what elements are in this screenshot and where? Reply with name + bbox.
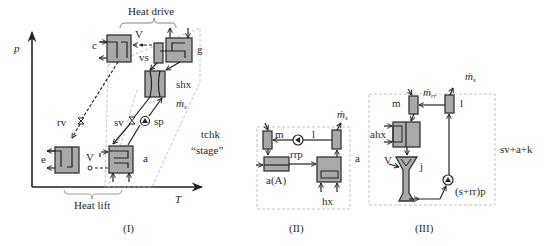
rv-label: rv bbox=[57, 116, 67, 128]
generator-label: g bbox=[197, 43, 203, 55]
vapor-separator-vs bbox=[154, 43, 163, 63]
heat-lift-label: Heat lift bbox=[74, 199, 110, 211]
l-label-3: l bbox=[460, 97, 463, 109]
l-label: l bbox=[312, 128, 315, 140]
caption-II: (II) bbox=[289, 222, 304, 235]
heat-drive-brace bbox=[120, 18, 176, 28]
t-axis-label: T bbox=[175, 193, 182, 205]
rrp-label: rrp bbox=[290, 148, 303, 160]
vapor-label-3: V bbox=[384, 154, 392, 166]
refrigerant-line bbox=[80, 62, 118, 122]
mass-flow-s-label-3: ṁs bbox=[465, 70, 476, 84]
solution-valve-sv bbox=[129, 117, 135, 124]
sv-label: sv bbox=[114, 116, 124, 128]
absorber-a-label-2: a bbox=[355, 152, 360, 164]
vapor-bottom-label: V bbox=[86, 151, 94, 163]
tchk-label: tchk bbox=[201, 128, 220, 140]
refrigerant-valve-rv bbox=[78, 118, 84, 124]
sv-a-k-label: sv+a+k bbox=[500, 143, 533, 155]
mixer-m-3 bbox=[409, 96, 418, 114]
diagram-canvas: p T Heat drive c V vs g shx ṁs bbox=[0, 0, 544, 246]
m-label: m bbox=[275, 128, 284, 140]
panel-3: ṁs ṁrr m l ahx V j (s+rr)p sv+a+k (III bbox=[369, 70, 533, 235]
evaporator-label: e bbox=[41, 153, 46, 165]
hx-label: hx bbox=[322, 195, 334, 207]
liquid-separator-l bbox=[332, 130, 341, 149]
jet-j bbox=[396, 157, 417, 201]
liquid-separator-l-3 bbox=[445, 95, 454, 113]
panel-2: ṁs m l rrp a(A) hx a (II) bbox=[256, 108, 360, 235]
vapor-top-label: V bbox=[135, 28, 143, 40]
solution-heat-exchanger-shx bbox=[145, 71, 165, 97]
sp-label: sp bbox=[154, 115, 164, 127]
jet-label: j bbox=[419, 160, 423, 172]
adiabatic-absorber-aA bbox=[264, 157, 289, 171]
p-axis-label: p bbox=[13, 42, 20, 54]
generator-g bbox=[166, 38, 192, 62]
heat-drive-label: Heat drive bbox=[128, 5, 174, 17]
absorber-label: a bbox=[143, 152, 148, 164]
absorber-a bbox=[109, 146, 133, 173]
caption-I: (I) bbox=[123, 222, 134, 235]
mass-flow-rr-label: ṁrr bbox=[423, 86, 437, 100]
shx-label: shx bbox=[176, 78, 192, 90]
condenser-label: c bbox=[92, 39, 97, 51]
pump-label: (s+rr)p bbox=[455, 185, 486, 198]
caption-III: (III) bbox=[415, 222, 434, 235]
vs-label: vs bbox=[139, 51, 149, 63]
mixer-m bbox=[263, 131, 272, 149]
heat-lift-brace bbox=[64, 190, 122, 199]
mass-flow-s-label: ṁs bbox=[176, 97, 187, 111]
ahx-label: ahx bbox=[370, 128, 386, 140]
m-label-3: m bbox=[392, 97, 401, 109]
aA-label: a(A) bbox=[266, 174, 286, 187]
stage-label: “stage” bbox=[191, 144, 223, 156]
panel-1: p T Heat drive c V vs g shx ṁs bbox=[13, 5, 223, 235]
mass-flow-s-label-2: ṁs bbox=[337, 108, 348, 122]
